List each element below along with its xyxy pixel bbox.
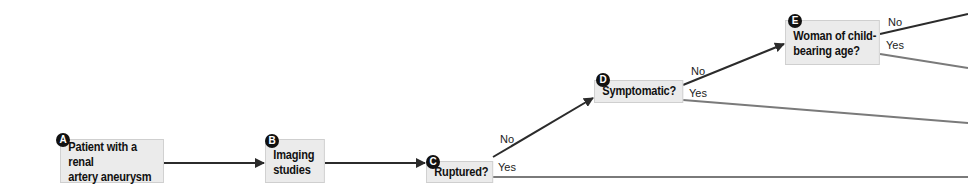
node-b-line-2: studies [273, 163, 310, 177]
node-b-line-1: Imaging [273, 148, 314, 162]
edge-c-no-to-d [493, 98, 593, 157]
node-a-label: Patient with a renal artery aneurysm [61, 137, 163, 185]
node-e-line-1: Woman of child- [793, 29, 876, 43]
edge-label-c-no: No [500, 133, 514, 145]
edge-e-yes [880, 54, 968, 68]
node-e-label: Woman of child- bearing age? [786, 26, 876, 59]
edge-label-e-yes: Yes [886, 39, 904, 51]
node-d-badge: D [596, 73, 610, 87]
edge-label-d-no: No [691, 65, 705, 77]
node-b-label: Imaging studies [266, 145, 314, 178]
node-e-badge: E [788, 14, 802, 28]
node-c-badge: C [426, 155, 440, 169]
node-d-label: Symptomatic? [595, 84, 676, 99]
node-e-box: Woman of child- bearing age? [785, 20, 880, 65]
edge-d-yes [683, 100, 968, 123]
node-a-line-1: Patient with a renal [68, 140, 137, 169]
node-a-badge: A [56, 133, 70, 147]
edge-label-d-yes: Yes [689, 87, 707, 99]
node-e-line-2: bearing age? [793, 44, 860, 58]
edge-label-c-yes: Yes [498, 161, 516, 173]
node-b-badge: B [265, 134, 279, 148]
node-a-box: Patient with a renal artery aneurysm [60, 139, 164, 183]
edge-label-e-no: No [888, 16, 902, 28]
node-a-line-2: artery aneurysm [68, 170, 151, 184]
